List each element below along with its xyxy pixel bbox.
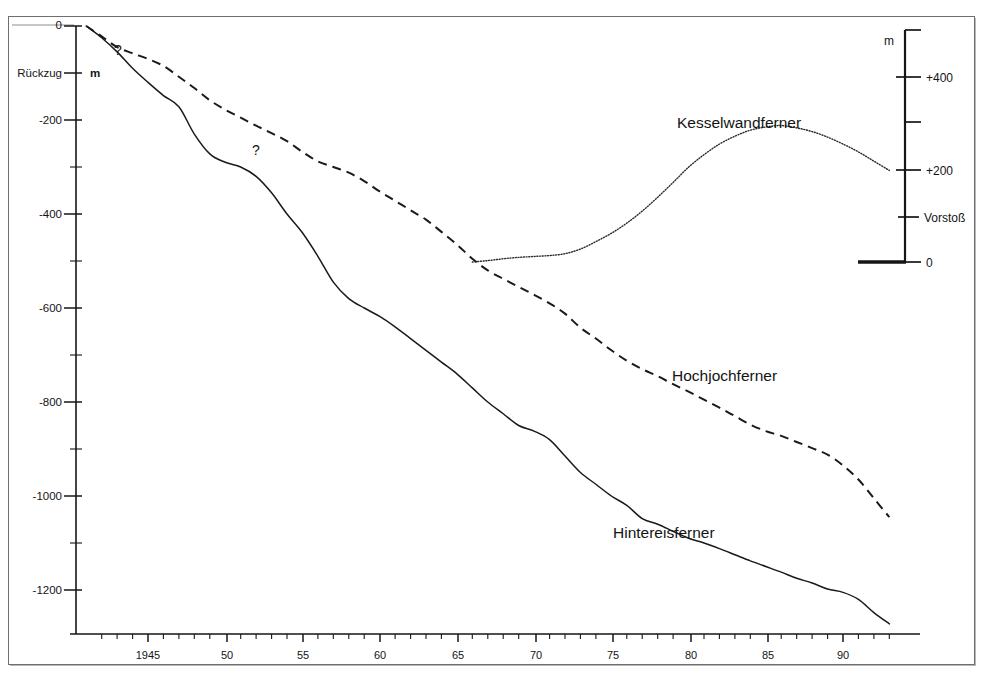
- x-label-1960: 60: [374, 649, 386, 661]
- curve-label-hochjochferner: Hochjochferner: [672, 367, 777, 384]
- x-label-1970: 70: [530, 649, 542, 661]
- scale-label-vorstoss: Vorstoß: [924, 211, 965, 225]
- scale-label-plus200: +200: [926, 164, 953, 178]
- advance-scale-bar: m +400 +200 Vorstoß 0: [858, 30, 965, 270]
- x-label-1945: 1945: [136, 649, 160, 661]
- x-label-1950: 50: [221, 649, 233, 661]
- y-label-minus600: -600: [39, 302, 62, 314]
- y-axis: 0 -200 -400 -600 -800 -1000 -1200 Rückzu…: [12, 19, 100, 634]
- x-label-1975: 75: [607, 649, 619, 661]
- glacier-retreat-chart: 0 -200 -400 -600 -800 -1000 -1200 Rückzu…: [0, 0, 984, 691]
- x-label-1990: 90: [837, 649, 849, 661]
- y-label-minus1200: -1200: [33, 584, 62, 596]
- y-label-minus400: -400: [39, 208, 62, 220]
- x-label-1965: 65: [452, 649, 464, 661]
- y-label-minus800: -800: [39, 396, 62, 408]
- scale-label-plus400: +400: [926, 71, 953, 85]
- series-line-hochjochferner: [86, 26, 889, 517]
- ruckzug-label: Rückzug: [17, 67, 62, 79]
- x-axis: 1945 50 55 60 65 70 75 80 85 90: [70, 634, 920, 661]
- y-label-minus1000: -1000: [33, 490, 62, 502]
- figure-page: 0 -200 -400 -600 -800 -1000 -1200 Rückzu…: [0, 0, 984, 691]
- series-line-kesselwandferner: [472, 126, 889, 262]
- curve-label-hintereisferner: Hintereisferner: [613, 524, 715, 541]
- x-label-1980: 80: [685, 649, 697, 661]
- y-label-0: 0: [56, 19, 62, 31]
- x-label-1985: 85: [762, 649, 774, 661]
- y-label-minus200: -200: [39, 114, 62, 126]
- y-axis-unit-label: m: [90, 67, 100, 79]
- uncertainty-mark-1: ?: [114, 42, 122, 58]
- scale-label-zero: 0: [926, 256, 933, 270]
- scale-unit-label: m: [884, 34, 894, 48]
- curve-label-kesselwandferner: Kesselwandferner: [677, 114, 801, 131]
- uncertainty-mark-2: ?: [252, 142, 260, 158]
- x-label-1955: 55: [297, 649, 309, 661]
